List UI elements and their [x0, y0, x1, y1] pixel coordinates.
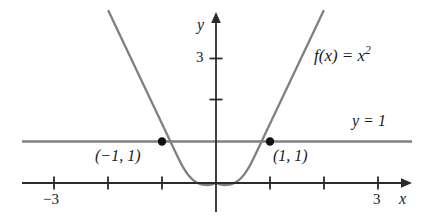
- x-tick-label-minus-3: −3: [43, 192, 59, 207]
- function-label: f(x) = x2: [314, 45, 371, 64]
- graph-figure: y 3 −3 3 x f(x) = x2 y = 1 (−1, 1) (1, 1…: [0, 0, 422, 222]
- point-marker-1-1: [266, 137, 274, 145]
- y-axis-label: y: [197, 17, 204, 33]
- x-axis-label: x: [399, 191, 406, 207]
- plot-canvas: [0, 0, 422, 222]
- point-label-1-1: (1, 1): [273, 148, 308, 164]
- y-axis-arrowhead: [211, 12, 221, 23]
- point-marker-minus-1-1: [158, 137, 166, 145]
- x-axis-arrowhead: [401, 178, 412, 188]
- function-label-exponent: 2: [365, 44, 371, 57]
- horizontal-line-label: y = 1: [352, 113, 386, 129]
- function-label-base: f(x) = x: [314, 46, 365, 65]
- point-label-minus-1-1: (−1, 1): [95, 148, 140, 164]
- x-tick-label-3: 3: [373, 192, 381, 207]
- y-tick-label-3: 3: [196, 50, 204, 65]
